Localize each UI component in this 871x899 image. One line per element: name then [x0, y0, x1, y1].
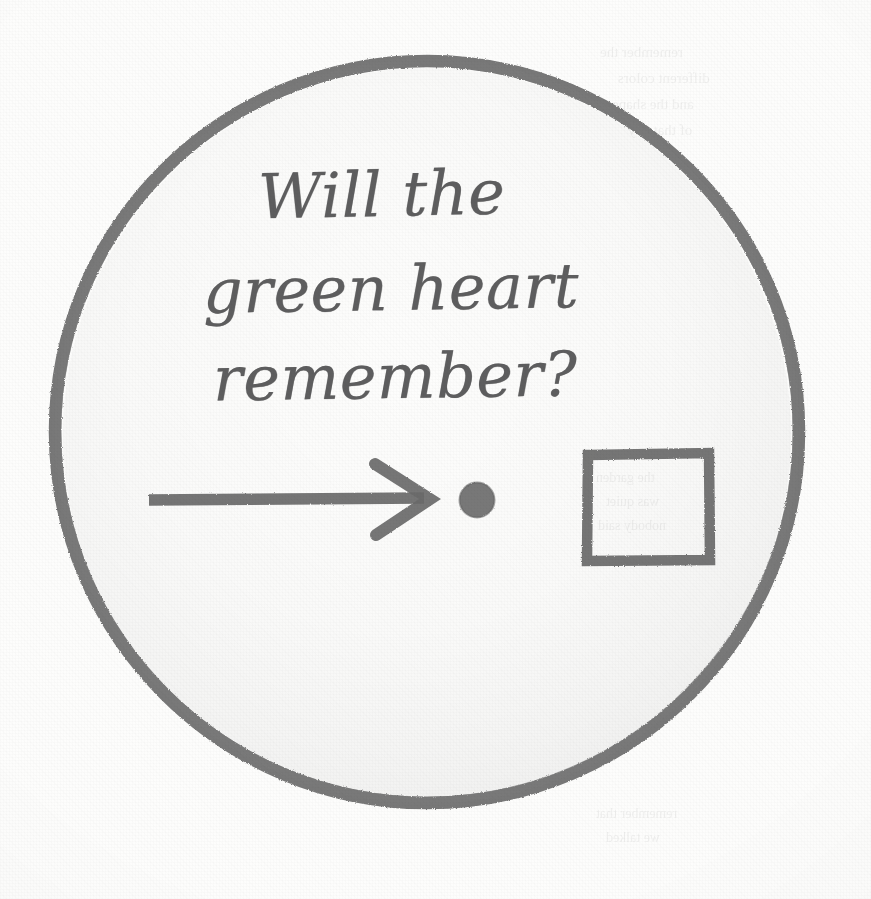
handwritten-line-3: remember?	[213, 337, 578, 415]
handwritten-line-2: green heart	[202, 249, 579, 328]
handwritten-line-1: Will the	[257, 156, 506, 234]
scanned-page: remember thedifferent colorsand the shap…	[0, 0, 871, 899]
dot-marker	[460, 483, 495, 518]
pencil-drawing	[0, 0, 871, 899]
